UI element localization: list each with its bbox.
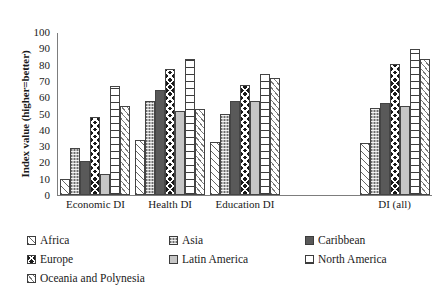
y-tick-label: 20 — [39, 157, 50, 168]
bar[interactable] — [370, 108, 380, 195]
legend-label: Asia — [182, 234, 203, 247]
y-tick-label: 30 — [39, 141, 50, 152]
bar[interactable] — [175, 111, 185, 195]
bar[interactable] — [400, 106, 410, 195]
legend-label: Latin America — [182, 253, 248, 266]
y-tick-label: 80 — [39, 60, 50, 71]
x-tick-label: DI (all) — [357, 198, 432, 211]
legend-label: Europe — [40, 253, 73, 266]
y-tick-label: 100 — [34, 27, 51, 38]
legend-item[interactable]: Africa — [27, 231, 169, 250]
legend-item[interactable]: Asia — [169, 231, 305, 250]
y-tick-label: 60 — [39, 92, 50, 103]
bar[interactable] — [360, 143, 370, 195]
legend-swatch-icon — [305, 255, 314, 264]
bar[interactable] — [145, 101, 155, 195]
x-tick-label: Economic DI — [58, 198, 133, 211]
legend-item[interactable]: Caribbean — [305, 231, 437, 250]
bar[interactable] — [135, 140, 145, 195]
legend-swatch-icon — [305, 236, 314, 245]
bar[interactable] — [70, 148, 80, 195]
legend-label: Caribbean — [318, 234, 365, 247]
y-tick-label: 10 — [39, 174, 50, 185]
y-tick-label: 50 — [39, 109, 50, 120]
bar[interactable] — [260, 74, 270, 196]
legend-row: AfricaAsiaCaribbean — [27, 231, 437, 250]
bar[interactable] — [240, 85, 250, 195]
bar[interactable] — [60, 179, 70, 195]
bar-chart: Index value (higher=better) 100908070605… — [0, 0, 444, 306]
bar-set — [133, 33, 208, 195]
legend-swatch-icon — [27, 255, 36, 264]
bar-group — [133, 33, 208, 195]
bar[interactable] — [80, 161, 90, 195]
legend-item[interactable]: North America — [305, 250, 437, 269]
bar[interactable] — [420, 59, 430, 195]
bar-group — [357, 33, 432, 195]
bar[interactable] — [120, 106, 130, 195]
bar[interactable] — [185, 59, 195, 195]
legend-item[interactable]: Europe — [27, 250, 169, 269]
legend-swatch-icon — [27, 274, 36, 283]
legend-swatch-icon — [169, 236, 178, 245]
bar-group — [282, 33, 357, 195]
bar[interactable] — [165, 69, 175, 195]
bar-group — [208, 33, 283, 195]
bar[interactable] — [155, 90, 165, 195]
legend-item[interactable]: Oceania and Polynesia — [27, 269, 169, 288]
x-axis-tick-labels: Economic DIHealth DIEducation DIDI (all) — [58, 198, 432, 214]
y-tick-label: 40 — [39, 125, 50, 136]
bar[interactable] — [195, 109, 205, 195]
bar[interactable] — [90, 117, 100, 195]
bar-set — [208, 33, 283, 195]
chart-legend: AfricaAsiaCaribbeanEuropeLatin AmericaNo… — [27, 231, 437, 288]
legend-label: Africa — [40, 234, 69, 247]
x-tick-label: Education DI — [208, 198, 283, 211]
legend-swatch-icon — [27, 236, 36, 245]
legend-row: EuropeLatin AmericaNorth America — [27, 250, 437, 269]
y-tick-label: 90 — [39, 43, 50, 54]
y-tick-label: 70 — [39, 76, 50, 87]
bar-groups — [58, 33, 432, 195]
bar[interactable] — [220, 114, 230, 195]
bar-set — [357, 33, 432, 195]
legend-swatch-icon — [169, 255, 178, 264]
bar[interactable] — [380, 103, 390, 195]
legend-label: North America — [318, 253, 387, 266]
bar-set — [58, 33, 133, 195]
x-tick-label: Health DI — [133, 198, 208, 211]
legend-item[interactable]: Latin America — [169, 250, 305, 269]
bar[interactable] — [100, 174, 110, 195]
legend-row: Oceania and Polynesia — [27, 269, 437, 288]
bar[interactable] — [270, 78, 280, 195]
bar-group — [58, 33, 133, 195]
y-axis-tick-labels: 1009080706050403020100 — [0, 33, 54, 196]
legend-label: Oceania and Polynesia — [40, 272, 145, 285]
bar[interactable] — [410, 49, 420, 195]
bar[interactable] — [110, 86, 120, 195]
bar[interactable] — [230, 101, 240, 195]
bar[interactable] — [250, 101, 260, 195]
bar[interactable] — [390, 64, 400, 195]
bar[interactable] — [210, 142, 220, 195]
y-tick-label: 0 — [45, 190, 51, 201]
